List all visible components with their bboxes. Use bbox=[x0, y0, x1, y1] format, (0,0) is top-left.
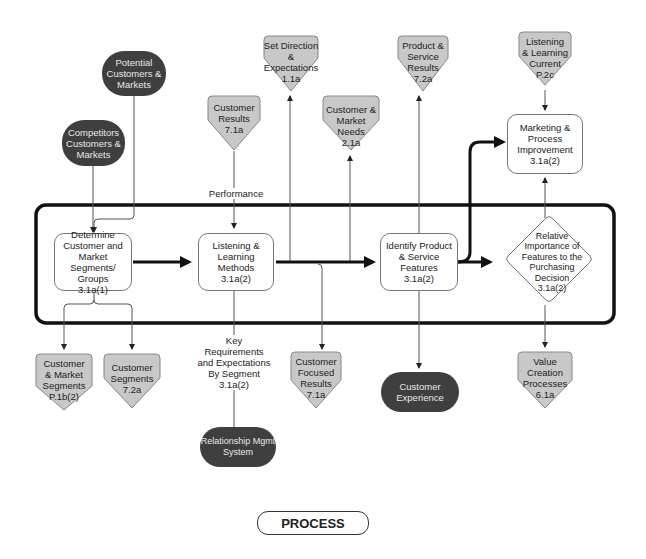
link-product-results[interactable]: Product & Service Results 7.2a bbox=[398, 36, 448, 91]
external-potential-customers[interactable]: Potential Customers & Markets bbox=[102, 51, 166, 96]
process-marketing-improvement[interactable]: Marketing & Process Improvement 3.1a(2) bbox=[507, 114, 583, 174]
link-customer-segments[interactable]: Customer Segments 7.2a bbox=[104, 358, 160, 408]
process-identify-features[interactable]: Identify Product & Service Features 3.1a… bbox=[380, 233, 458, 291]
external-competitors[interactable]: Competitors Customers & Markets bbox=[62, 120, 125, 166]
link-listening-current[interactable]: Listening & Learning Current P.2c bbox=[519, 32, 571, 85]
legend-process: PROCESS bbox=[257, 511, 369, 535]
performance-label: Performance bbox=[206, 188, 266, 199]
external-relationship-mgmt[interactable]: Relationship Mgmt System bbox=[200, 427, 276, 467]
decision-relative-importance[interactable]: Relative Importance of Features to the P… bbox=[510, 224, 594, 300]
link-market-segments[interactable]: Customer & Market Segments P.1b(2) bbox=[36, 354, 92, 410]
link-customer-results[interactable]: Customer Results 7.1a bbox=[208, 98, 260, 150]
link-value-creation[interactable]: Value Creation Processes 6.1a bbox=[518, 352, 572, 408]
link-focused-results[interactable]: Customer Focused Results 7.1a bbox=[291, 352, 341, 408]
process-listening-learning[interactable]: Listening & Learning Methods 3.1a(2) bbox=[198, 233, 274, 291]
key-requirements-label: Key Requirements and Expectations By Seg… bbox=[194, 335, 274, 390]
link-set-direction[interactable]: Set Direction & Expectations 1.1a bbox=[264, 36, 318, 91]
process-determine-segments[interactable]: Determine Customer and Market Segments/ … bbox=[54, 233, 132, 291]
external-customer-experience[interactable]: Customer Experience bbox=[381, 372, 459, 412]
link-market-needs[interactable]: Customer & Market Needs 2.1a bbox=[323, 100, 379, 150]
